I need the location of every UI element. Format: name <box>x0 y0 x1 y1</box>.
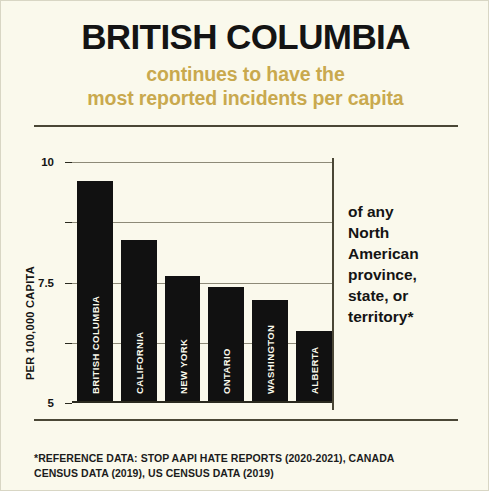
subtitle-line-2: most reported incidents per capita <box>1 86 489 111</box>
bar-label: WASHINGTON <box>265 325 276 394</box>
y-tick-label: 7.5 <box>38 277 54 289</box>
side-copy-line-1: of any <box>348 201 478 222</box>
divider-top <box>34 125 458 127</box>
side-copy-line-2: North <box>348 222 478 243</box>
y-tick-mark: 0 <box>65 403 72 404</box>
plot-area: 107.552.50 BRITISH COLUMBIACALIFORNIANEW… <box>72 162 332 403</box>
side-copy-line-6: territory* <box>348 306 478 327</box>
side-copy-line-5: state, or <box>348 285 478 306</box>
bar-slot: ALBERTA <box>296 162 332 401</box>
bar-label: CALIFORNIA <box>133 331 144 394</box>
footnote-line-1: *REFERENCE DATA: STOP AAPI HATE REPORTS … <box>34 451 454 466</box>
bar[interactable]: ONTARIO <box>208 287 244 401</box>
divider-bottom <box>34 419 458 421</box>
y-tick-label: 10 <box>41 156 54 168</box>
bar[interactable]: BRITISH COLUMBIA <box>77 181 113 402</box>
bar[interactable]: ALBERTA <box>296 331 332 401</box>
bar-slot: WASHINGTON <box>252 162 288 401</box>
footnote-line-2: CENSUS DATA (2019), US CENSUS DATA (2019… <box>34 466 454 481</box>
bar-label: NEW YORK <box>177 339 188 394</box>
side-copy-line-4: province, <box>348 264 478 285</box>
y-tick-label: 5 <box>48 397 54 409</box>
bar-slot: ONTARIO <box>208 162 244 401</box>
side-copy: of any North American province, state, o… <box>348 201 478 327</box>
bar[interactable]: NEW YORK <box>165 276 201 401</box>
bar-slot: NEW YORK <box>165 162 201 401</box>
bar-label: BRITISH COLUMBIA <box>89 296 100 394</box>
x-axis-line <box>72 401 332 403</box>
bar-slot: BRITISH COLUMBIA <box>77 162 113 401</box>
infographic-poster: BRITISH COLUMBIA continues to have the m… <box>0 0 489 491</box>
bars-group: BRITISH COLUMBIACALIFORNIANEW YORKONTARI… <box>77 162 332 401</box>
y-tick-mark: 7.5 <box>65 222 72 223</box>
y-tick-mark: 5 <box>65 283 72 284</box>
header: BRITISH COLUMBIA continues to have the m… <box>1 19 489 111</box>
divider-vertical <box>332 158 334 410</box>
bar-slot: CALIFORNIA <box>121 162 157 401</box>
side-copy-line-3: American <box>348 243 478 264</box>
bar[interactable]: WASHINGTON <box>252 300 288 401</box>
bar-label: ONTARIO <box>221 348 232 394</box>
bar-label: ALBERTA <box>309 347 320 394</box>
subtitle-line-1: continues to have the <box>1 62 489 87</box>
bar[interactable]: CALIFORNIA <box>121 240 157 401</box>
footnote: *REFERENCE DATA: STOP AAPI HATE REPORTS … <box>34 451 454 481</box>
y-tick-mark: 10 <box>65 162 72 163</box>
y-axis-label: PER 100,000 CAPITA <box>24 243 36 403</box>
page-title: BRITISH COLUMBIA <box>1 19 489 56</box>
y-tick-mark: 2.5 <box>65 343 72 344</box>
